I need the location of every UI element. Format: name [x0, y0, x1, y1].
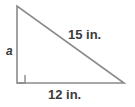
right-triangle-figure: a 15 in. 12 in.: [0, 0, 135, 107]
triangle-outline: [17, 6, 124, 83]
label-leg-a: a: [6, 45, 13, 57]
label-hypotenuse: 15 in.: [68, 28, 101, 41]
right-angle-marker-icon: [17, 75, 25, 83]
label-base: 12 in.: [48, 88, 81, 101]
